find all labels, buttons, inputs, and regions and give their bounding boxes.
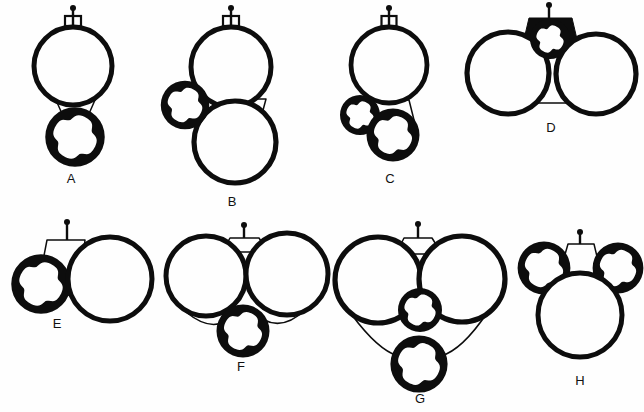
figure-a-plain-ring-0 <box>34 27 112 105</box>
figure-label-c: C <box>385 171 394 186</box>
figure-f-plain-ring-0 <box>166 236 246 316</box>
figure-label-b: B <box>228 194 237 209</box>
figure-c-plain-ring-0 <box>351 27 427 103</box>
figure-h-plain-ring-2 <box>538 273 622 357</box>
figure-label-g: G <box>415 391 425 406</box>
figure-d-stem-knob <box>546 2 552 8</box>
figure-f-stem-knob <box>241 222 247 228</box>
figure-label-f: F <box>237 359 245 374</box>
figure-g-stem-knob <box>415 221 421 227</box>
figure-label-a: A <box>67 171 76 186</box>
figure-b-stem-knob <box>228 5 234 11</box>
figure-plate: ABCDEFGH <box>0 0 644 412</box>
figure-h-stem-knob <box>577 229 583 235</box>
figure-a-stem-knob <box>70 5 76 11</box>
figure-c-stem-knob <box>386 5 392 11</box>
plate-canvas: ABCDEFGH <box>0 0 644 412</box>
figure-e-plain-ring-1 <box>68 237 152 321</box>
figure-label-h: H <box>575 373 584 388</box>
figure-label-e: E <box>53 316 62 331</box>
figure-label-d: D <box>546 120 555 135</box>
figure-f-plain-ring-1 <box>246 233 328 315</box>
figure-e-stem-knob <box>64 219 70 225</box>
